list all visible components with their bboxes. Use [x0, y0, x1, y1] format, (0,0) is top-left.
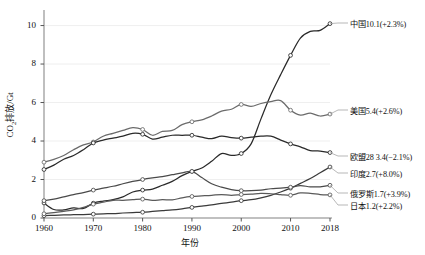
data-point-marker — [289, 53, 293, 57]
data-point-marker — [289, 185, 293, 189]
data-point-marker — [190, 170, 194, 174]
x-axis-tick-label: 1990 — [175, 223, 209, 233]
series-line — [44, 100, 330, 162]
data-point-marker — [91, 202, 95, 206]
series-leader-line — [330, 195, 348, 205]
data-point-marker — [239, 103, 243, 107]
series-line — [44, 133, 330, 169]
series-leader-line — [330, 110, 348, 114]
data-point-marker — [328, 151, 332, 155]
data-point-marker — [42, 212, 46, 216]
data-point-marker — [239, 199, 243, 203]
series-leader-line — [330, 23, 348, 24]
y-axis-tick-label: 6 — [20, 97, 36, 107]
y-axis-tick-label: 10 — [20, 20, 36, 30]
data-point-marker — [289, 142, 293, 146]
y-axis-tick-label: 4 — [20, 135, 36, 145]
data-point-marker — [42, 199, 46, 203]
series-leader-line — [330, 185, 348, 193]
data-point-marker — [141, 210, 145, 214]
data-point-marker — [141, 132, 145, 136]
x-axis-tick-label: 1980 — [126, 223, 160, 233]
data-point-marker — [239, 189, 243, 193]
x-axis-tick-label: 2018 — [313, 223, 347, 233]
series-label-俄罗斯: 俄罗斯1.7(+3.9%) — [350, 187, 410, 199]
series-leader-line — [330, 153, 348, 156]
data-point-marker — [190, 133, 194, 137]
y-axis-tick-label: 8 — [20, 58, 36, 68]
data-point-marker — [289, 108, 293, 112]
data-point-marker — [289, 193, 293, 197]
data-point-marker — [190, 120, 194, 124]
x-axis-tick-label: 1960 — [27, 223, 61, 233]
data-point-marker — [91, 141, 95, 145]
data-point-marker — [239, 136, 243, 140]
y-axis-tick-label: 2 — [20, 174, 36, 184]
series-leader-line — [330, 167, 348, 173]
data-point-marker — [91, 188, 95, 192]
series-line — [44, 24, 330, 211]
data-point-marker — [239, 152, 243, 156]
series-label-欧盟28: 欧盟28 3.4(−2.1%) — [350, 150, 412, 162]
y-axis-tick-label: 0 — [20, 212, 36, 222]
data-point-marker — [190, 206, 194, 210]
x-axis-tick-label: 1970 — [76, 223, 110, 233]
data-point-marker — [141, 188, 145, 192]
series-label-美国: 美国5.4(+2.6%) — [350, 104, 402, 116]
data-point-marker — [141, 178, 145, 182]
series-label-中国: 中国10.1(+2.3%) — [350, 17, 406, 29]
data-point-marker — [91, 212, 95, 216]
co2-emissions-line-chart: CO2排放/Gt 年份 0246810196019701980199020002… — [0, 0, 425, 255]
series-label-印度: 印度2.7(+8.0%) — [350, 167, 402, 179]
x-axis-tick-label: 2000 — [224, 223, 258, 233]
series-line — [44, 193, 330, 214]
data-point-marker — [141, 197, 145, 201]
series-line — [44, 171, 330, 200]
series-label-日本: 日本1.2(+2.2%) — [350, 199, 402, 211]
data-point-marker — [42, 168, 46, 172]
plot-area — [0, 0, 425, 255]
data-point-marker — [141, 128, 145, 132]
data-point-marker — [42, 160, 46, 164]
x-axis-tick-label: 2010 — [274, 223, 308, 233]
data-point-marker — [239, 193, 243, 197]
data-point-marker — [190, 195, 194, 199]
